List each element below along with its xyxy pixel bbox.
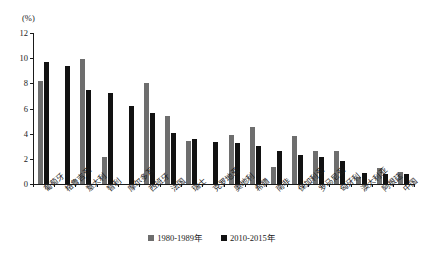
y-tick-label: 0 — [24, 180, 28, 189]
y-tick-label: 10 — [20, 54, 29, 63]
bar-group — [165, 33, 176, 184]
legend-swatch — [221, 235, 227, 241]
legend-item: 2010-2015年 — [221, 234, 276, 243]
bar-group — [356, 33, 367, 184]
bar-group — [292, 33, 303, 184]
bar-group — [59, 33, 70, 184]
y-tick-label: 4 — [24, 129, 28, 138]
bar-series1 — [80, 59, 85, 184]
bar-group — [250, 33, 261, 184]
chart-legend: 1980-1989年2010-2015年 — [0, 234, 424, 243]
bar-series2 — [235, 143, 240, 184]
bar-series2 — [256, 146, 261, 184]
y-axis-unit-label: (%) — [22, 14, 35, 23]
y-tick-mark — [30, 159, 33, 160]
y-tick-mark — [30, 109, 33, 110]
y-tick-mark — [30, 33, 33, 34]
bar-group — [102, 33, 113, 184]
bar-series2 — [298, 155, 303, 184]
bar-series1 — [38, 81, 43, 184]
legend-swatch — [148, 235, 154, 241]
bar-group — [80, 33, 91, 184]
plot-area: 024681012 — [33, 33, 414, 185]
bar-series1 — [186, 141, 191, 184]
bar-group — [123, 33, 134, 184]
legend-item: 1980-1989年 — [148, 234, 203, 243]
bar-chart-figure: (%) 024681012 葡萄牙格鲁吉亚意大利智利摩尔多瓦西班牙法国瑞士克罗地… — [0, 0, 424, 258]
legend-label: 1980-1989年 — [157, 234, 203, 243]
bar-series1 — [292, 136, 297, 184]
legend-label: 2010-2015年 — [230, 234, 276, 243]
bar-group — [38, 33, 49, 184]
bar-series1 — [271, 167, 276, 184]
bar-group — [313, 33, 324, 184]
bar-series2 — [192, 139, 197, 184]
bar-group — [229, 33, 240, 184]
bar-series2 — [129, 106, 134, 184]
bar-group — [377, 33, 388, 184]
bar-group — [334, 33, 345, 184]
bar-group — [207, 33, 218, 184]
bar-series2 — [44, 62, 49, 184]
bar-series2 — [277, 151, 282, 184]
y-tick-label: 2 — [24, 155, 28, 164]
y-axis-line — [33, 33, 34, 185]
y-tick-mark — [30, 83, 33, 84]
bar-group — [144, 33, 155, 184]
y-tick-mark — [30, 134, 33, 135]
bar-series2 — [171, 133, 176, 184]
y-tick-label: 12 — [20, 29, 29, 38]
bar-series2 — [65, 66, 70, 184]
bar-group — [398, 33, 409, 184]
bar-group — [271, 33, 282, 184]
y-tick-mark — [30, 58, 33, 59]
bar-group — [186, 33, 197, 184]
bar-series2 — [108, 93, 113, 184]
y-tick-label: 6 — [24, 104, 28, 113]
y-tick-label: 8 — [24, 79, 28, 88]
x-tick-mark — [33, 184, 34, 187]
bar-series2 — [213, 142, 218, 184]
